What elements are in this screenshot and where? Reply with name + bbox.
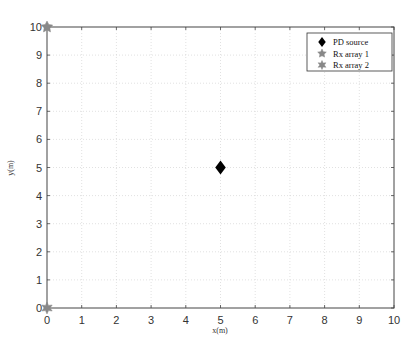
x-axis-label: x(m) [212, 326, 228, 335]
legend-item-label: PD source [333, 37, 368, 47]
x-tick-label: 10 [388, 314, 400, 326]
x-tick-label: 1 [79, 314, 85, 326]
pentagram-marker-icon [41, 21, 52, 32]
x-tick-label: 0 [44, 314, 50, 326]
y-tick-label: 9 [36, 49, 42, 61]
legend-item-label: Rx array 1 [333, 49, 369, 59]
x-tick-label: 9 [356, 314, 362, 326]
x-tick-label: 7 [287, 314, 293, 326]
y-tick-label: 8 [36, 77, 42, 89]
y-tick-label: 4 [36, 190, 42, 202]
x-tick-label: 6 [252, 314, 258, 326]
x-tick-label: 2 [113, 314, 119, 326]
y-tick-label: 7 [36, 105, 42, 117]
x-tick-label: 5 [217, 314, 223, 326]
y-tick-label: 0 [36, 302, 42, 314]
scatter-chart: 012345678910012345678910 x(m) y(m) PD so… [0, 0, 420, 353]
y-tick-label: 3 [36, 218, 42, 230]
legend: PD sourceRx array 1Rx array 2 [307, 33, 392, 71]
x-tick-label: 3 [148, 314, 154, 326]
y-tick-label: 10 [30, 21, 42, 33]
y-tick-label: 6 [36, 133, 42, 145]
diamond-marker-icon [215, 161, 226, 175]
y-axis-label: y(m) [6, 160, 15, 176]
x-tick-label: 4 [183, 314, 189, 326]
x-tick-label: 8 [322, 314, 328, 326]
legend-item-label: Rx array 2 [333, 60, 369, 70]
y-tick-label: 1 [36, 274, 42, 286]
y-tick-label: 2 [36, 246, 42, 258]
y-tick-label: 5 [36, 162, 42, 174]
